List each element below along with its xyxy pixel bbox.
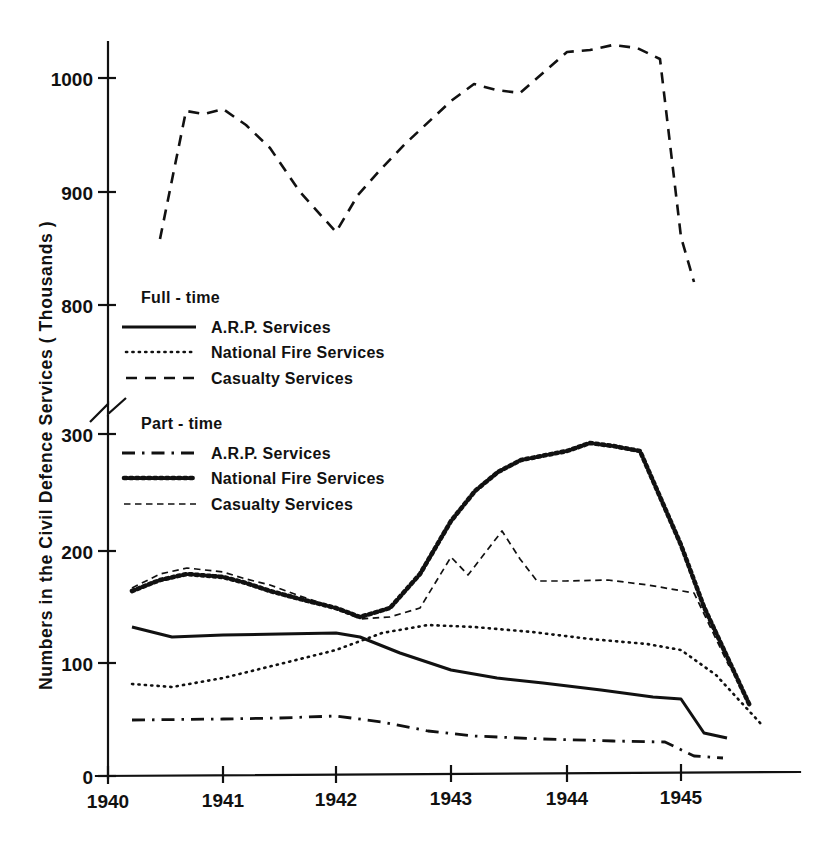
x-tick-labels: 1940 1941 1942 1943 1944 1945 [87, 787, 703, 812]
x-label-1942: 1942 [315, 789, 357, 810]
chart-figure: 1000 900 800 300 200 100 0 1940 1941 194… [0, 0, 817, 859]
series-full-time-arp-services [132, 627, 727, 738]
y-axis-title: Numbers in the Civil Defence Services ( … [36, 221, 56, 690]
legend-heading-full-time: Full - time [141, 289, 220, 306]
axis-group [90, 42, 800, 784]
legend-part-time: Part - time A.R.P. Services National Fir… [122, 415, 385, 513]
upper-panel-series [160, 45, 694, 282]
y-label-200: 200 [61, 542, 93, 563]
y-label-300: 300 [61, 425, 93, 446]
x-label-1944: 1944 [546, 788, 589, 809]
series-full-time-national-fire-services [132, 625, 762, 725]
x-label-1941: 1941 [202, 790, 245, 811]
legend-full-time: Full - time A.R.P. Services National Fir… [122, 289, 385, 387]
legend-label-part-time-arp: A.R.P. Services [211, 445, 331, 462]
legend-label-part-time-nfs: National Fire Services [211, 470, 385, 487]
civil-defence-line-chart: 1000 900 800 300 200 100 0 1940 1941 194… [0, 0, 817, 859]
legend-label-part-time-casualty: Casualty Services [211, 496, 353, 513]
y-label-900: 900 [61, 183, 93, 204]
y-tick-labels-lower: 300 200 100 0 [61, 425, 93, 788]
x-label-1940: 1940 [87, 791, 129, 812]
y-label-100: 100 [61, 654, 93, 675]
series-part-time-arp-services [132, 716, 723, 758]
x-label-1945: 1945 [660, 787, 703, 808]
legend-heading-part-time: Part - time [141, 415, 223, 432]
x-label-1943: 1943 [430, 788, 472, 809]
y-tick-labels-upper: 1000 900 800 [51, 69, 93, 317]
legend-label-full-time-arp: A.R.P. Services [211, 319, 331, 336]
y-label-0: 0 [82, 767, 93, 788]
legend-label-full-time-nfs: National Fire Services [211, 344, 385, 361]
series-part-time-casualty-services [132, 531, 729, 666]
lower-panel-series [132, 443, 762, 758]
x-axis [96, 772, 800, 776]
legend-label-full-time-casualty: Casualty Services [211, 370, 353, 387]
series-full-time-casualty-services [160, 45, 694, 282]
y-label-800: 800 [61, 296, 93, 317]
y-label-1000: 1000 [51, 69, 93, 90]
